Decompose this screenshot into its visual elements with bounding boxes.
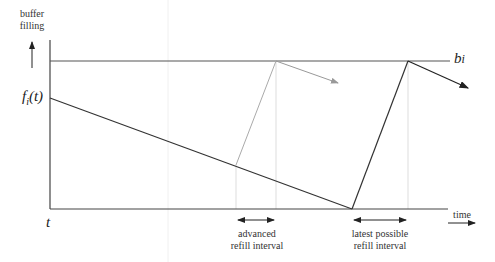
- capacity-label: bi: [454, 50, 465, 67]
- latest-interval-label: latest possible refill interval: [335, 228, 425, 252]
- advanced-refill-rise: [236, 61, 276, 165]
- buffer-diagram: [0, 0, 495, 262]
- latest-refill-rise: [352, 61, 408, 209]
- time-t-label: t: [46, 214, 50, 231]
- time-axis-label: time: [450, 209, 474, 221]
- filling-decline-line: [50, 98, 352, 209]
- y-axis-label: buffer filling: [16, 8, 48, 32]
- filling-function-label: fi(t): [22, 88, 43, 107]
- advanced-refill-decline-arrow: [276, 61, 338, 83]
- advanced-interval-label: advanced refill interval: [212, 228, 302, 252]
